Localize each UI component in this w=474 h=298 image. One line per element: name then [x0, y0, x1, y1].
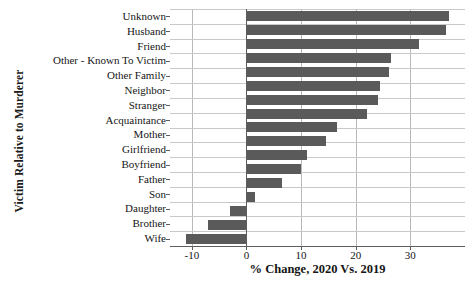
- bar: [186, 234, 246, 244]
- bar-row: [170, 232, 465, 246]
- y-axis-category-labels: UnknownHusbandFriendOther - Known To Vic…: [24, 9, 170, 246]
- bar-row: [170, 176, 465, 190]
- category-tick-mark: [166, 76, 170, 77]
- bar: [246, 192, 254, 202]
- category-label: Other - Known To Victim: [24, 53, 170, 68]
- bar: [246, 53, 391, 63]
- tick-label: 0: [244, 249, 250, 261]
- bar-row: [170, 190, 465, 204]
- category-tick-mark: [166, 31, 170, 32]
- category-label: Neighbor: [24, 83, 170, 98]
- category-label: Wife: [24, 231, 170, 246]
- tick-label: 10: [296, 249, 307, 261]
- bar-row: [170, 65, 465, 79]
- category-label: Father: [24, 172, 170, 187]
- category-tick-mark: [166, 135, 170, 136]
- bar-row: [170, 79, 465, 93]
- bar-chart: Victim Relative to Murderer UnknownHusba…: [0, 0, 474, 298]
- category-tick-mark: [166, 16, 170, 17]
- category-tick-mark: [166, 46, 170, 47]
- category-tick-mark: [166, 150, 170, 151]
- category-label: Stranger: [24, 98, 170, 113]
- bar-row: [170, 51, 465, 65]
- tick-label: 30: [405, 249, 416, 261]
- bar-row: [170, 23, 465, 37]
- category-tick-mark: [166, 90, 170, 91]
- category-label: Husband: [24, 24, 170, 39]
- category-tick-mark: [166, 224, 170, 225]
- bar: [246, 67, 388, 77]
- bar: [246, 25, 445, 35]
- bar-row: [170, 148, 465, 162]
- bar: [246, 122, 336, 132]
- category-label: Acquaintance: [24, 113, 170, 128]
- category-label: Boyfriend: [24, 157, 170, 172]
- category-tick-mark: [166, 61, 170, 62]
- plot-area: [170, 9, 465, 246]
- bar: [246, 95, 377, 105]
- bar: [246, 81, 380, 91]
- bar: [246, 11, 448, 21]
- bar: [246, 164, 301, 174]
- bar-series: [170, 9, 465, 246]
- category-tick-mark: [166, 120, 170, 121]
- category-label: Other Family: [24, 68, 170, 83]
- category-label: Unknown: [24, 9, 170, 24]
- bar-row: [170, 121, 465, 135]
- bar-row: [170, 162, 465, 176]
- category-tick-mark: [166, 105, 170, 106]
- bar-row: [170, 107, 465, 121]
- bar: [246, 150, 306, 160]
- bar: [246, 109, 366, 119]
- bar: [246, 178, 282, 188]
- category-tick-mark: [166, 209, 170, 210]
- category-label: Friend: [24, 39, 170, 54]
- bar-row: [170, 218, 465, 232]
- bar-row: [170, 9, 465, 23]
- bar-row: [170, 134, 465, 148]
- category-tick-mark: [166, 165, 170, 166]
- category-label: Daughter: [24, 202, 170, 217]
- bar-row: [170, 204, 465, 218]
- category-label: Brother: [24, 216, 170, 231]
- category-label: Girlfriend: [24, 142, 170, 157]
- tick-label: 20: [350, 249, 361, 261]
- bar-row: [170, 93, 465, 107]
- category-tick-mark: [166, 179, 170, 180]
- bar-row: [170, 37, 465, 51]
- x-axis-title: % Change, 2020 Vs. 2019: [170, 262, 465, 277]
- bar: [208, 220, 246, 230]
- bar: [230, 206, 246, 216]
- tick-label: -10: [185, 249, 200, 261]
- category-label: Son: [24, 187, 170, 202]
- category-tick-mark: [166, 239, 170, 240]
- category-tick-mark: [166, 194, 170, 195]
- bar: [246, 39, 418, 49]
- category-label: Mother: [24, 128, 170, 143]
- zero-baseline: [246, 9, 247, 247]
- bar: [246, 136, 325, 146]
